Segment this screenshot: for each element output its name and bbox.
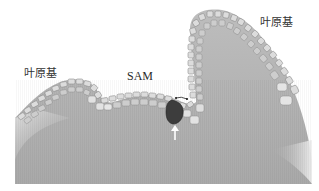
label-sam: SAM [127,70,153,82]
label-leaf-primordium-right: 叶原基 [260,17,293,28]
label-leaf-primordium-left: 叶原基 [24,68,57,79]
sam-diagram: 叶原基 SAM 叶原基 [0,0,319,191]
